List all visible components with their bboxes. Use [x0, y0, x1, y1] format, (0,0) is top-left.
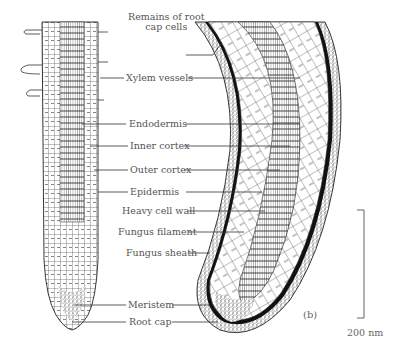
label-meristem: Meristem: [128, 300, 174, 310]
scale-bar: [357, 210, 364, 318]
label-outer-cortex: Outer cortex: [130, 165, 191, 175]
label-endodermis: Endodermis: [129, 119, 187, 129]
root-illustration: [0, 0, 396, 349]
root-tip-b: [195, 22, 341, 333]
scale-bar-label: 200 nm: [347, 327, 383, 338]
label-remains-root-cap: Remains of root cap cells: [128, 12, 205, 32]
root-tip-a: [21, 22, 108, 330]
label-inner-cortex: Inner cortex: [130, 141, 190, 151]
label-epidermis: Epidermis: [130, 187, 179, 197]
label-fungus-sheath: Fungus sheath: [126, 248, 197, 258]
label-fungus-filament: Fungus filament: [118, 227, 197, 237]
label-line: cap cells: [128, 22, 205, 32]
panel-label: (b): [303, 309, 317, 320]
label-heavy-cell-wall: Heavy cell wall: [122, 206, 195, 216]
label-root-cap: Root cap: [129, 317, 172, 327]
label-xylem-vessels: Xylem vessels: [126, 73, 193, 83]
